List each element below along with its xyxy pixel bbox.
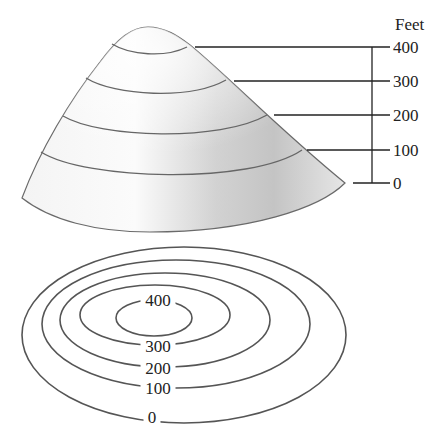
- scale-tick-400: 400: [195, 38, 419, 57]
- contour-map: 4003002001000: [22, 247, 346, 427]
- contour-400: 400: [116, 291, 192, 336]
- contour-100: 100: [42, 260, 310, 398]
- scale-tick-100: 100: [307, 141, 419, 160]
- contour-200: 200: [60, 273, 270, 378]
- contour-label: 400: [145, 291, 171, 310]
- tick-label: 100: [393, 141, 419, 160]
- diagram-canvas: Feet 4003002001000 4003002001000: [0, 0, 436, 432]
- scale-tick-0: 0: [353, 174, 402, 193]
- tick-label: 0: [393, 174, 402, 193]
- hill-3d: [22, 27, 345, 232]
- scale-tick-300: 300: [234, 72, 419, 91]
- scale-tick-200: 200: [274, 106, 419, 125]
- tick-label: 400: [393, 38, 419, 57]
- contour-diagram: Feet 4003002001000 4003002001000: [0, 0, 436, 432]
- tick-label: 200: [393, 106, 419, 125]
- contour-label: 200: [145, 359, 171, 378]
- contour-label: 300: [145, 337, 171, 356]
- contour-label: 100: [145, 379, 171, 398]
- tick-label: 300: [393, 72, 419, 91]
- contour-label: 0: [148, 408, 157, 427]
- units-label: Feet: [395, 15, 425, 34]
